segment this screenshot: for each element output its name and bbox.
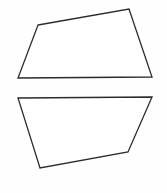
top-quadrilateral-shape <box>18 9 152 78</box>
figure-canvas <box>0 0 167 193</box>
bottom-pentagon-shape <box>18 97 152 168</box>
shapes-drawing <box>0 0 167 193</box>
